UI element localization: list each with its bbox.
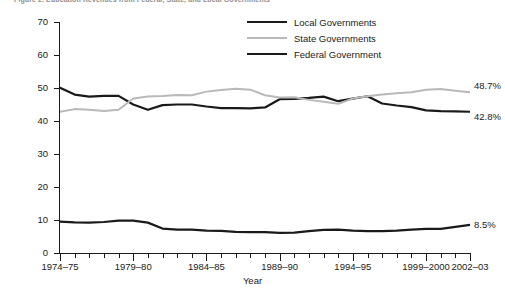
x-tick-20 (353, 254, 354, 261)
end-label-state: 48.7% (474, 80, 501, 91)
y-tick-label-0: 0 (12, 247, 48, 258)
legend-item-local: Local Governments (247, 14, 381, 30)
x-tick-label-2: 1984–85 (171, 261, 241, 272)
y-tick-label-40: 40 (12, 115, 48, 126)
x-tick-14 (265, 254, 266, 258)
legend-label-federal: Federal Government (294, 49, 381, 60)
x-tick-4 (119, 254, 120, 258)
x-tick-27 (455, 254, 456, 258)
y-tick-label-20: 20 (12, 181, 48, 192)
y-tick-label-10: 10 (12, 214, 48, 225)
legend-swatch-state (247, 37, 287, 39)
legend-item-state: State Governments (247, 30, 381, 46)
x-tick-7 (163, 254, 164, 258)
series-line-federal (60, 221, 470, 233)
x-tick-21 (368, 254, 369, 258)
x-tick-6 (148, 254, 149, 258)
x-tick-0 (60, 254, 61, 261)
x-tick-1 (75, 254, 76, 258)
x-tick-2 (89, 254, 90, 258)
end-label-federal: 8.5% (474, 219, 496, 230)
y-tick-label-30: 30 (12, 148, 48, 159)
x-tick-25 (426, 254, 427, 261)
x-tick-9 (192, 254, 193, 258)
figure-title: Figure 2. Education Revenues from Federa… (14, 0, 270, 4)
x-tick-28 (470, 254, 471, 261)
y-tick-label-70: 70 (12, 16, 48, 27)
x-tick-16 (294, 254, 295, 258)
x-tick-15 (280, 254, 281, 261)
legend-item-federal: Federal Government (247, 46, 381, 62)
x-tick-label-3: 1989–90 (245, 261, 315, 272)
x-tick-17 (309, 254, 310, 258)
x-tick-label-1: 1979–80 (98, 261, 168, 272)
y-tick-label-50: 50 (12, 82, 48, 93)
x-tick-label-4: 1994–95 (318, 261, 388, 272)
x-tick-label-6: 2002–03 (435, 261, 505, 272)
legend-swatch-federal (247, 53, 287, 55)
x-tick-13 (250, 254, 251, 258)
x-tick-19 (338, 254, 339, 258)
legend-swatch-local (247, 21, 287, 23)
x-tick-23 (397, 254, 398, 258)
x-tick-24 (411, 254, 412, 258)
legend: Local Governments State Governments Fede… (247, 14, 381, 62)
legend-label-local: Local Governments (294, 17, 376, 28)
x-tick-22 (382, 254, 383, 258)
x-tick-8 (177, 254, 178, 258)
x-tick-18 (324, 254, 325, 258)
x-tick-12 (236, 254, 237, 258)
x-tick-label-0: 1974–75 (25, 261, 95, 272)
x-tick-26 (441, 254, 442, 258)
x-tick-10 (206, 254, 207, 261)
legend-label-state: State Governments (294, 33, 376, 44)
x-tick-11 (221, 254, 222, 258)
x-tick-3 (104, 254, 105, 258)
x-tick-5 (133, 254, 134, 261)
end-label-local: 42.8% (474, 111, 501, 122)
y-tick-label-60: 60 (12, 49, 48, 60)
x-axis-title: Year (0, 275, 505, 286)
chart-figure: Figure 2. Education Revenues from Federa… (0, 0, 505, 293)
